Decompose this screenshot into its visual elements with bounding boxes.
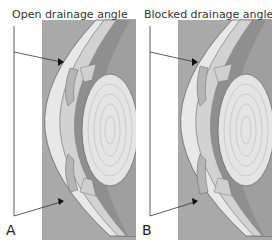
panel-label-b: B — [142, 222, 152, 238]
eye-cross-section-diagram-b — [136, 0, 272, 246]
panel-title-open-angle: Open drainage angle — [12, 8, 128, 21]
panel-b: Blocked drainage angle B — [136, 0, 272, 246]
panel-a: Open drainage angle A — [0, 0, 136, 246]
panel-label-a: A — [6, 222, 16, 238]
eye-cross-section-diagram-a — [0, 0, 136, 246]
panel-title-blocked-angle: Blocked drainage angle — [144, 8, 272, 21]
